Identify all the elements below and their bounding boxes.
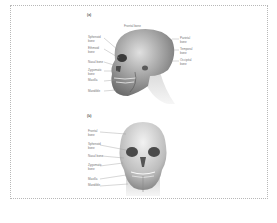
lateral-skull-icon <box>104 29 179 104</box>
anterior-skull-icon <box>100 122 167 196</box>
skull-illustrations <box>0 0 277 223</box>
